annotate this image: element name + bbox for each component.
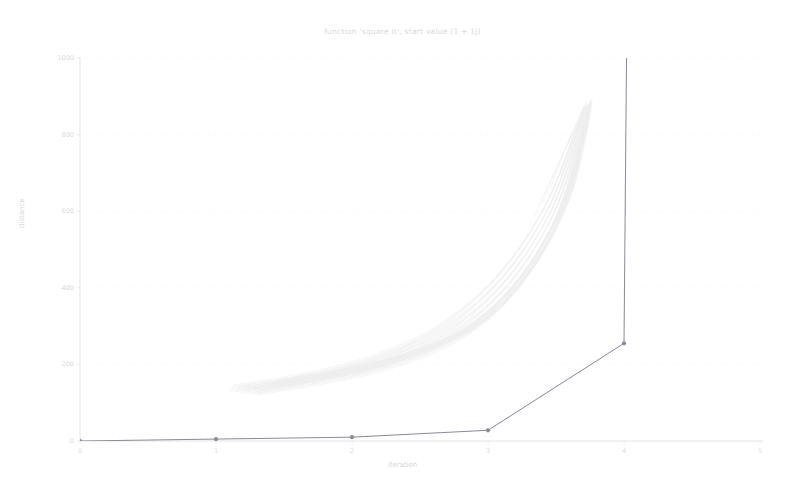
chart-figure: function 'square it', start value (1 + 1…: [0, 0, 805, 489]
x-tick-label: 0: [65, 447, 95, 455]
x-tick-labels: 012345: [0, 0, 805, 489]
y-axis-label: distance: [18, 198, 26, 228]
x-axis-label: iteration: [0, 461, 805, 469]
x-tick-label: 5: [745, 447, 775, 455]
x-tick-label: 4: [609, 447, 639, 455]
x-tick-label: 2: [337, 447, 367, 455]
x-tick-label: 1: [201, 447, 231, 455]
x-tick-label: 3: [473, 447, 503, 455]
